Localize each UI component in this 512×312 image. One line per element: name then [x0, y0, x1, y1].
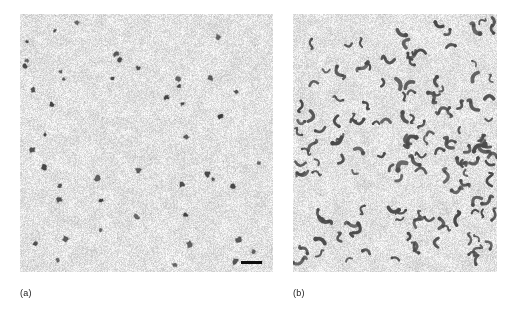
micrograph-panel-a: [20, 14, 273, 272]
panel-label-b: (b): [293, 288, 305, 299]
micrograph-image-a: [20, 14, 273, 272]
micrograph-image-b: [293, 14, 497, 272]
micrograph-panel-b: [293, 14, 497, 272]
figure-root: (a) (b): [0, 0, 512, 312]
panel-label-a: (a): [20, 288, 32, 299]
scale-bar: [241, 261, 262, 264]
